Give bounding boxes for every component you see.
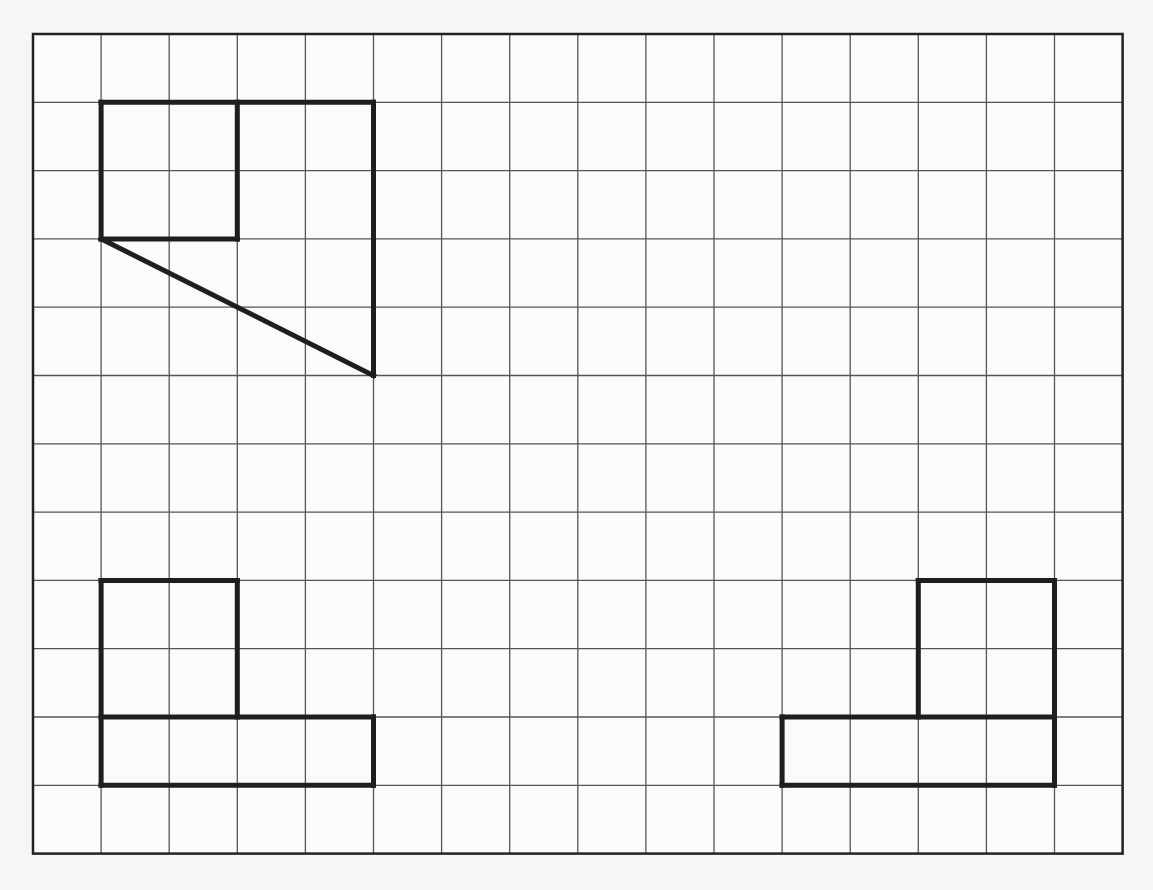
grid-diagram [0, 0, 1153, 890]
